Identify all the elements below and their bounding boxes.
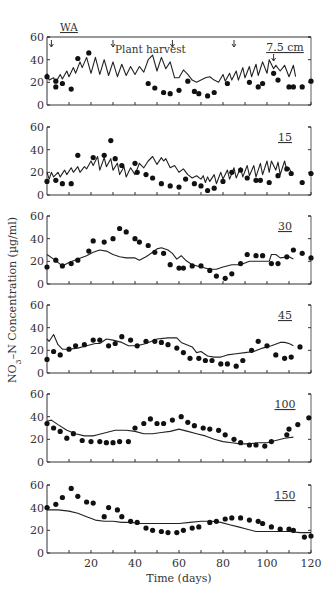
observed-point [141, 421, 146, 426]
observed-point [245, 175, 250, 180]
observed-point [161, 90, 166, 95]
observed-point [80, 438, 85, 443]
y-tick-label: 20 [30, 76, 44, 89]
observed-point [238, 515, 243, 520]
observed-point [247, 442, 252, 447]
observed-point [128, 338, 133, 343]
panel-2: 020406015 [30, 121, 314, 202]
observed-point [148, 416, 153, 421]
observed-point [198, 263, 203, 268]
observed-point [102, 240, 107, 245]
x-axis-title: Time (days) [146, 572, 211, 585]
y-tick-label: 20 [30, 344, 44, 357]
observed-point [159, 340, 164, 345]
observed-point [207, 427, 212, 432]
observed-point [152, 339, 157, 344]
observed-point [150, 175, 155, 180]
observed-point [174, 530, 179, 535]
observed-point [258, 178, 263, 183]
observed-point [143, 526, 148, 531]
x-tick-label: 100 [257, 557, 278, 570]
observed-point [168, 91, 173, 96]
observed-point [291, 84, 296, 89]
observed-point [238, 168, 243, 173]
observed-point [165, 342, 170, 347]
observed-point [53, 79, 58, 84]
observed-point [102, 514, 107, 519]
observed-point [44, 357, 49, 362]
observed-point [269, 524, 274, 529]
observed-point [161, 251, 166, 256]
observed-point [69, 181, 74, 186]
observed-point [284, 432, 289, 437]
observed-point [104, 440, 109, 445]
observed-point [308, 533, 313, 538]
y-tick-label: 20 [30, 524, 44, 537]
panel-4: 020406045 [30, 299, 311, 380]
observed-point [137, 240, 142, 245]
observed-point [150, 528, 155, 533]
observed-point [229, 515, 234, 520]
observed-point [102, 153, 107, 158]
observed-point [214, 519, 219, 524]
observed-point [289, 355, 294, 360]
observed-point [154, 421, 159, 426]
observed-point [60, 263, 65, 268]
x-tick-label: 120 [301, 557, 322, 570]
observed-point [181, 350, 186, 355]
observed-point [225, 361, 230, 366]
observed-point [284, 254, 289, 259]
observed-point [231, 437, 236, 442]
observed-point [91, 338, 96, 343]
y-axis-title: NO3–N Concentration (µg/ml) [6, 217, 23, 383]
observed-point [143, 172, 148, 177]
observed-point [238, 261, 243, 266]
y-tick-label: 60 [30, 299, 44, 312]
observed-point [44, 74, 49, 79]
observed-point [53, 258, 58, 263]
y-tick-label: 0 [37, 456, 44, 469]
observed-point [117, 226, 122, 231]
observed-point [69, 87, 74, 92]
observed-point [181, 266, 186, 271]
observed-point [75, 494, 80, 499]
y-tick-label: 20 [30, 433, 44, 446]
observed-point [91, 155, 96, 160]
depth-label: 15 [278, 131, 292, 144]
observed-point [291, 247, 296, 252]
panel-5: 0204060100 [30, 388, 311, 469]
observed-point [302, 535, 307, 540]
observed-point [260, 521, 265, 526]
observed-point [132, 425, 137, 430]
observed-point [300, 251, 305, 256]
observed-point [275, 173, 280, 178]
chart: 02040607.5 cm020406015020406030020406045… [0, 0, 333, 601]
observed-point [273, 352, 278, 357]
observed-point [192, 89, 197, 94]
panel-6: 020406015020406080100120 [30, 479, 322, 570]
observed-point [286, 427, 291, 432]
y-tick-label: 60 [30, 388, 44, 401]
observed-point [214, 274, 219, 279]
observed-point [91, 501, 96, 506]
observed-point [135, 170, 140, 175]
observed-point [51, 349, 56, 354]
observed-point [234, 364, 239, 369]
observed-point [88, 439, 93, 444]
observed-point [106, 505, 111, 510]
y-tick-label: 60 [30, 121, 44, 134]
observed-point [60, 181, 65, 186]
observed-point [117, 439, 122, 444]
observed-point [53, 178, 58, 183]
observed-point [278, 527, 283, 532]
observed-point [126, 439, 131, 444]
observed-point [256, 339, 261, 344]
observed-point [249, 348, 254, 353]
observed-point [64, 436, 69, 441]
y-tick-label: 0 [37, 278, 44, 291]
observed-point [128, 519, 133, 524]
observed-point [113, 156, 118, 161]
x-tick-label: 60 [172, 557, 186, 570]
observed-point [183, 177, 188, 182]
y-tick-label: 40 [30, 322, 44, 335]
